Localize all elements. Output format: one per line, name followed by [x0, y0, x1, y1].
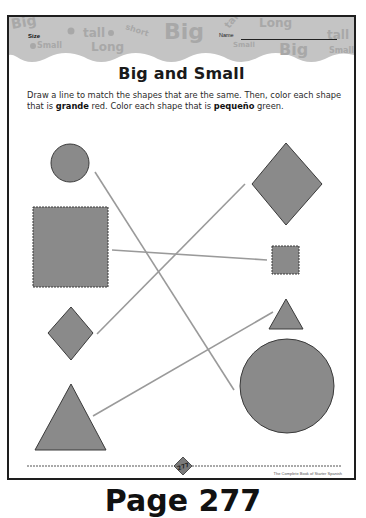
shapes-canvas: 277: [9, 17, 354, 478]
small-diamond-shape[interactable]: [48, 307, 93, 360]
book-credit: The Complete Book of Starter Spanish: [274, 471, 342, 476]
small-circle-shape[interactable]: [51, 144, 89, 182]
page-caption: Page 277: [0, 486, 366, 516]
small-triangle-shape[interactable]: [269, 299, 303, 329]
big-diamond-shape[interactable]: [252, 143, 322, 225]
big-triangle-shape[interactable]: [35, 384, 106, 450]
line-small-diamond-to-big-diamond[interactable]: [97, 184, 245, 334]
line-big-square-to-small-square[interactable]: [112, 250, 267, 260]
small-square-shape[interactable]: [272, 246, 299, 274]
big-square-shape[interactable]: [33, 207, 108, 287]
line-small-circle-to-big-circle[interactable]: [95, 172, 234, 390]
page-number-badge: 277: [174, 457, 192, 475]
big-circle-shape[interactable]: [240, 339, 334, 433]
worksheet-page: Big tall short Big tall Long tall Small …: [7, 15, 356, 480]
